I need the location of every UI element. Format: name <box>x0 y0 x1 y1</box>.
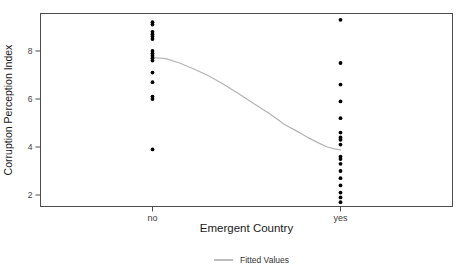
data-point <box>151 148 155 152</box>
x-tick-label: no <box>147 213 157 223</box>
data-point <box>339 61 343 65</box>
x-tick-label: yes <box>333 213 348 223</box>
data-point <box>151 71 155 75</box>
y-tick-label: 2 <box>28 190 33 200</box>
y-tick-label: 6 <box>28 94 33 104</box>
data-point <box>339 162 343 166</box>
data-point <box>151 23 155 27</box>
data-point <box>339 200 343 204</box>
data-point <box>339 100 343 104</box>
data-point <box>151 80 155 84</box>
data-point <box>339 83 343 87</box>
data-point <box>339 143 343 147</box>
data-point <box>151 97 155 101</box>
chart-figure: 8642noyesCorruption Perception IndexEmer… <box>0 0 465 274</box>
data-point <box>339 116 343 120</box>
data-point <box>339 157 343 161</box>
data-point <box>339 191 343 195</box>
y-axis-title: Corruption Perception Index <box>2 44 14 175</box>
data-point <box>339 138 343 142</box>
data-point <box>339 131 343 135</box>
data-point <box>339 169 343 173</box>
data-point <box>339 184 343 188</box>
x-axis-title: Emergent Country <box>200 222 294 234</box>
y-tick-label: 8 <box>28 46 33 56</box>
plot-box <box>41 14 453 207</box>
data-point <box>339 176 343 180</box>
data-point <box>339 18 343 22</box>
scatter-plot: 8642noyesCorruption Perception IndexEmer… <box>0 0 465 274</box>
legend-label: Fitted Values <box>240 255 289 265</box>
fitted-line <box>153 58 341 150</box>
data-point <box>151 59 155 63</box>
data-point <box>151 37 155 41</box>
y-tick-label: 4 <box>28 142 33 152</box>
data-point <box>339 196 343 200</box>
